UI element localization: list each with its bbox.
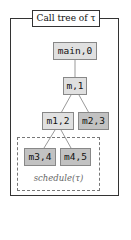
schedule-label: schedule(τ) [17,173,100,183]
node-main-0: main,0 [53,42,97,60]
node-m1-2: m1,2 [42,112,74,130]
node-m4-5: m4,5 [60,148,91,166]
node-m2-3: m2,3 [78,112,109,130]
node-m3-4: m3,4 [24,148,56,166]
node-m-1: m,1 [63,77,87,95]
